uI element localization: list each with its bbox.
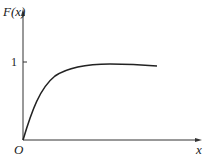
origin-label: O xyxy=(14,142,23,158)
y-axis-label: F(x) xyxy=(3,4,25,20)
y-tick-label-1: 1 xyxy=(11,55,17,70)
x-axis-label: x xyxy=(196,142,202,158)
cdf-curve xyxy=(23,64,157,140)
chart-canvas xyxy=(0,0,209,163)
